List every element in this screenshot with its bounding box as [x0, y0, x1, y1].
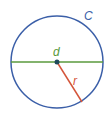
center-dot: [55, 60, 60, 65]
diameter-label: d: [53, 45, 60, 59]
radius-line: [57, 62, 82, 102]
circle-diagram: C d r: [0, 0, 109, 118]
circumference-label: C: [84, 9, 93, 23]
radius-label: r: [73, 74, 78, 88]
